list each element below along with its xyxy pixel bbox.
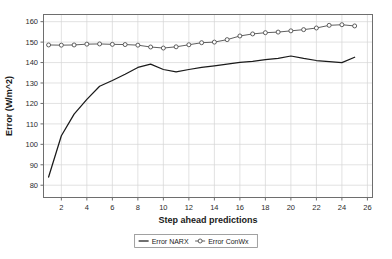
legend-label: Error NARX (152, 238, 189, 245)
y-axis-title: Error (W/m^2) (4, 76, 14, 136)
data-point-marker (340, 23, 344, 27)
y-tick-label: 140 (25, 58, 38, 67)
data-point-marker (263, 31, 267, 35)
x-tick-label: 2 (59, 203, 63, 212)
data-point-marker (314, 26, 318, 30)
y-tick-label: 120 (25, 99, 38, 108)
data-point-marker (276, 30, 280, 34)
data-point-marker (225, 38, 229, 42)
y-tick-label: 80 (30, 181, 38, 190)
x-tick-label: 6 (110, 203, 114, 212)
legend-label: Error ConWx (208, 238, 249, 245)
data-point-marker (110, 42, 114, 46)
data-point-marker (289, 29, 293, 33)
x-tick-label: 8 (136, 203, 140, 212)
y-tick-label: 100 (25, 140, 38, 149)
data-point-marker (251, 32, 255, 36)
x-tick-label: 16 (236, 203, 244, 212)
x-tick-label: 22 (312, 203, 320, 212)
data-point-marker (353, 24, 357, 28)
data-point-marker (302, 28, 306, 32)
x-tick-label: 10 (159, 203, 167, 212)
data-point-marker (212, 40, 216, 44)
y-tick-label: 110 (26, 120, 38, 129)
data-point-marker (85, 42, 89, 46)
data-point-marker (59, 43, 63, 47)
y-axis: 8090100110120130140150160 (25, 17, 43, 190)
x-tick-label: 24 (338, 203, 346, 212)
x-tick-label: 20 (287, 203, 295, 212)
y-tick-label: 90 (30, 161, 38, 170)
data-point-marker (327, 23, 331, 27)
data-point-marker (123, 43, 127, 47)
data-point-marker (149, 45, 153, 49)
data-point-marker (200, 41, 204, 45)
line-chart: 8090100110120130140150160246810121416182… (0, 0, 392, 259)
x-tick-label: 4 (85, 203, 89, 212)
data-point-marker (72, 43, 76, 47)
data-point-marker (136, 43, 140, 47)
y-tick-label: 150 (25, 38, 38, 47)
data-point-marker (174, 45, 178, 49)
x-tick-label: 26 (363, 203, 371, 212)
y-tick-label: 160 (25, 17, 38, 26)
y-tick-label: 130 (25, 79, 38, 88)
data-point-marker (98, 42, 102, 46)
data-point-marker (161, 46, 165, 50)
data-point-marker (47, 43, 51, 47)
legend-marker-circle (198, 239, 202, 243)
data-point-marker (238, 34, 242, 38)
chart-legend: Error NARXError ConWx (135, 235, 258, 248)
x-tick-label: 18 (261, 203, 269, 212)
x-tick-label: 12 (185, 203, 193, 212)
x-axis-title: Step ahead predictions (158, 215, 257, 225)
chart-figure: 8090100110120130140150160246810121416182… (0, 0, 392, 259)
data-point-marker (187, 43, 191, 47)
x-axis: 2468101214161820222426 (59, 198, 371, 212)
x-tick-label: 14 (210, 203, 218, 212)
